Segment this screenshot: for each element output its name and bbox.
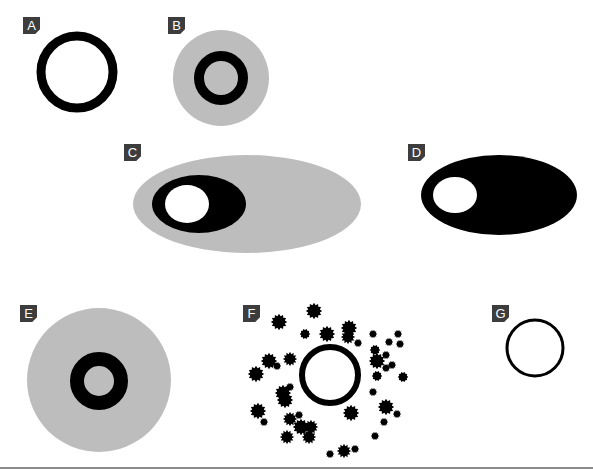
spiky-dot — [343, 405, 359, 421]
spiky-dot — [283, 352, 297, 366]
spiky-dot — [300, 329, 310, 339]
shape-c-ellipse-in-ellipse — [133, 155, 361, 253]
panel-label-e: E — [20, 305, 37, 322]
spiky-dot — [385, 338, 393, 346]
diagram-canvas — [0, 0, 593, 476]
spiky-dot — [326, 450, 334, 458]
shape-a-ring — [41, 36, 113, 108]
spiky-dot — [369, 388, 377, 396]
spiky-dot — [250, 403, 266, 419]
spiky-dot — [369, 330, 377, 338]
spiky-dot — [398, 372, 408, 382]
panel-label-g: G — [492, 305, 509, 322]
spiky-dot — [380, 418, 388, 426]
spiky-dot — [372, 371, 382, 381]
bottom-divider — [0, 467, 593, 469]
panel-label-a: A — [23, 17, 40, 34]
spiky-dot — [351, 445, 359, 453]
spiky-dot — [370, 345, 380, 355]
shape-g-thin-circle — [507, 320, 563, 376]
spiky-dot — [260, 418, 268, 426]
panel-label-f: F — [243, 305, 260, 322]
spiky-dot — [248, 366, 264, 382]
spiky-dot — [306, 303, 322, 319]
spiky-dot — [354, 339, 362, 347]
shape-d-solid-ellipse — [421, 155, 577, 235]
spiky-dot — [371, 432, 379, 440]
spiky-dot — [280, 430, 294, 444]
panel-label-d: D — [408, 144, 425, 161]
spiky-dot — [295, 411, 303, 419]
spiky-dot — [393, 410, 401, 418]
spiky-dot — [337, 444, 351, 458]
panel-label-c: C — [124, 144, 141, 161]
spiky-dot — [394, 330, 402, 338]
shape-f-ring-with-stars — [248, 303, 408, 458]
spiky-dot — [396, 340, 404, 348]
spiky-dot — [378, 399, 394, 415]
panel-label-b: B — [168, 17, 185, 34]
shape-b-ring-in-disc — [173, 30, 269, 126]
spiky-dot — [271, 314, 287, 330]
shape-e-ring-in-large-disc — [27, 308, 171, 452]
spiky-dot — [319, 326, 335, 342]
